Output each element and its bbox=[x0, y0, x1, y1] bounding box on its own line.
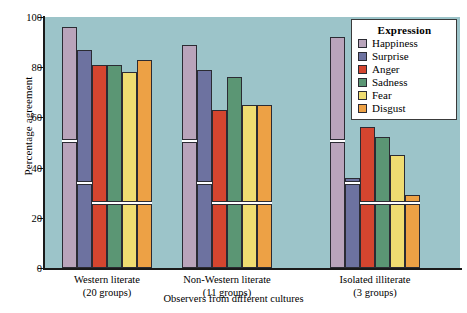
legend-swatch-happiness-icon bbox=[358, 39, 367, 48]
bar-sadness-group-1 bbox=[107, 65, 122, 268]
chance-marker-sadness-group-2 bbox=[227, 201, 242, 205]
bar-fear-group-1 bbox=[122, 72, 137, 268]
bar-sadness-group-2 bbox=[227, 77, 242, 268]
chance-marker-anger-group-1 bbox=[92, 201, 107, 205]
x-group-label-name: Western literate bbox=[47, 273, 167, 286]
legend-label: Surprise bbox=[372, 51, 409, 62]
chance-marker-happiness-group-2 bbox=[182, 139, 197, 143]
x-axis-title: Observers from different cultures bbox=[0, 293, 467, 304]
chance-marker-sadness-group-3 bbox=[375, 201, 390, 205]
bar-disgust-group-2 bbox=[257, 105, 272, 268]
chance-marker-disgust-group-1 bbox=[137, 201, 152, 205]
legend-item-disgust[interactable]: Disgust bbox=[358, 102, 451, 115]
bar-disgust-group-1 bbox=[137, 60, 152, 268]
bar-surprise-group-2 bbox=[197, 70, 212, 268]
legend-swatch-fear-icon bbox=[358, 91, 367, 100]
chance-marker-disgust-group-2 bbox=[257, 201, 272, 205]
chance-marker-fear-group-2 bbox=[242, 201, 257, 205]
chance-marker-sadness-group-1 bbox=[107, 201, 122, 205]
legend-item-fear[interactable]: Fear bbox=[358, 89, 451, 102]
legend-label: Anger bbox=[372, 64, 400, 75]
legend-label: Fear bbox=[372, 90, 392, 101]
legend-title: Expression bbox=[358, 24, 451, 36]
bar-fear-group-2 bbox=[242, 105, 257, 268]
bar-happiness-group-3 bbox=[330, 37, 345, 268]
bar-disgust-group-3 bbox=[405, 195, 420, 268]
bar-happiness-group-1 bbox=[62, 27, 77, 268]
legend-item-anger[interactable]: Anger bbox=[358, 63, 451, 76]
chance-marker-anger-group-3 bbox=[360, 201, 375, 205]
legend-swatch-disgust-icon bbox=[358, 104, 367, 113]
chance-marker-surprise-group-3 bbox=[345, 181, 360, 185]
legend-swatch-surprise-icon bbox=[358, 52, 367, 61]
bar-surprise-group-1 bbox=[77, 50, 92, 268]
legend: Expression HappinessSurpriseAngerSadness… bbox=[351, 19, 457, 120]
legend-item-happiness[interactable]: Happiness bbox=[358, 37, 451, 50]
bar-anger-group-1 bbox=[92, 65, 107, 268]
chance-marker-happiness-group-1 bbox=[62, 139, 77, 143]
chance-marker-surprise-group-2 bbox=[197, 181, 212, 185]
legend-label: Happiness bbox=[372, 38, 418, 49]
legend-swatch-anger-icon bbox=[358, 65, 367, 74]
bar-fear-group-3 bbox=[390, 155, 405, 268]
legend-item-surprise[interactable]: Surprise bbox=[358, 50, 451, 63]
bar-anger-group-3 bbox=[360, 127, 375, 268]
chance-marker-disgust-group-3 bbox=[405, 201, 420, 205]
legend-swatch-sadness-icon bbox=[358, 78, 367, 87]
chance-marker-fear-group-3 bbox=[390, 201, 405, 205]
chance-marker-anger-group-2 bbox=[212, 201, 227, 205]
chance-marker-fear-group-1 bbox=[122, 201, 137, 205]
chance-marker-happiness-group-3 bbox=[330, 139, 345, 143]
x-group-label-name: Non-Western literate bbox=[167, 273, 287, 286]
legend-items: HappinessSurpriseAngerSadnessFearDisgust bbox=[358, 37, 451, 115]
chart-figure: Percentage agreement 020406080100 Wester… bbox=[0, 0, 467, 313]
bar-anger-group-2 bbox=[212, 110, 227, 268]
legend-label: Disgust bbox=[372, 103, 406, 114]
bar-surprise-group-3 bbox=[345, 178, 360, 268]
bar-happiness-group-2 bbox=[182, 45, 197, 268]
x-group-label-name: Isolated illiterate bbox=[315, 273, 435, 286]
legend-item-sadness[interactable]: Sadness bbox=[358, 76, 451, 89]
chance-marker-surprise-group-1 bbox=[77, 181, 92, 185]
legend-label: Sadness bbox=[372, 77, 407, 88]
